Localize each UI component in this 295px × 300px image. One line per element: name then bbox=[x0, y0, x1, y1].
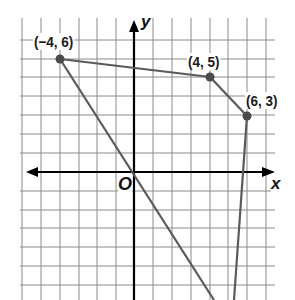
y-axis bbox=[129, 20, 139, 300]
point-4-5 bbox=[206, 73, 215, 82]
edge-c-down bbox=[234, 116, 247, 300]
y-axis-label: y bbox=[141, 14, 150, 30]
x-axis bbox=[26, 167, 275, 177]
x-axis-left-arrow-icon bbox=[26, 167, 38, 177]
point-label-6-3: (6, 3) bbox=[245, 92, 278, 109]
origin-label: O bbox=[118, 176, 132, 192]
coordinate-plane-figure: (−4, 6) (4, 5) (6, 3) y x O bbox=[0, 0, 295, 300]
point-6-3 bbox=[243, 112, 252, 121]
point-neg4-6 bbox=[56, 55, 65, 64]
x-axis-label: x bbox=[271, 176, 280, 192]
point-label-4-5: (4, 5) bbox=[187, 53, 220, 70]
point-label-neg4-6: (−4, 6) bbox=[33, 33, 74, 50]
y-axis-up-arrow-icon bbox=[129, 20, 139, 32]
